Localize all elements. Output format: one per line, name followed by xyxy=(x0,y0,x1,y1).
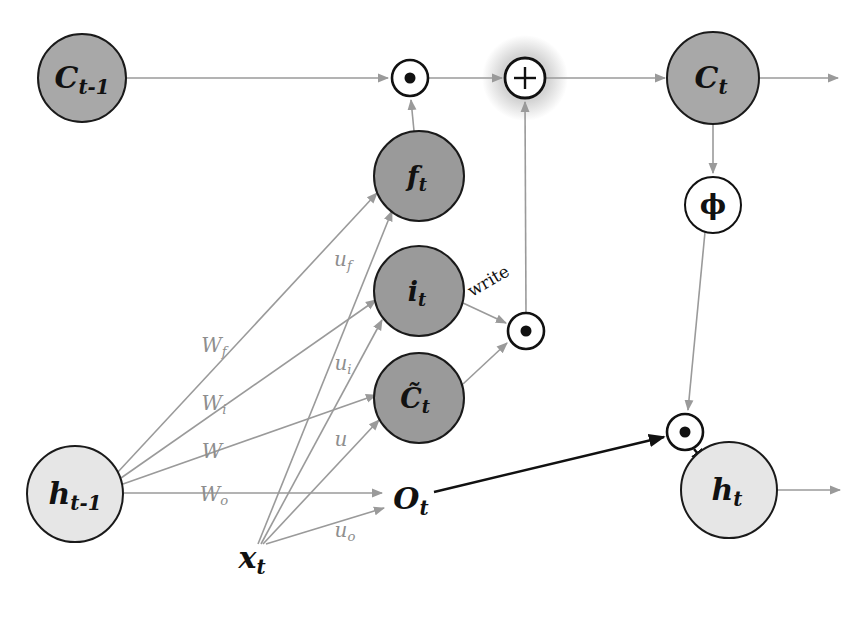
node-phi[interactable]: ϕ xyxy=(685,177,741,233)
multiply-icon-dot xyxy=(405,73,416,84)
node-o-t-label: Ot xyxy=(393,481,428,520)
node-o-t[interactable]: Ot xyxy=(393,481,428,520)
weight-label-W_o: Wo xyxy=(200,482,229,508)
weight-label-W: W xyxy=(202,439,224,463)
weight-label-W_f: Wf xyxy=(201,333,229,359)
edge-phi-to-output_mult xyxy=(688,232,705,410)
node-c-prev[interactable]: Ct-1 xyxy=(38,34,126,122)
edge-h_prev-to-i_gate xyxy=(121,300,376,478)
multiply-icon-dot xyxy=(680,427,691,438)
edge-label-layer: write xyxy=(464,261,513,301)
edge-label-write: write xyxy=(464,261,513,301)
lstm-diagram: Ct-1 ft it C̃t Ct xyxy=(0,0,866,639)
weight-label-u: u xyxy=(335,427,348,451)
node-c-tilde[interactable]: C̃t xyxy=(374,353,464,443)
edge-c_tilde-to-write_mult xyxy=(463,343,507,384)
node-layer: Ct-1 ft it C̃t Ct xyxy=(27,32,777,579)
weight-label-u_f: uf xyxy=(334,247,354,273)
weight-label-layer: Wf Wi W Wo uf ui u uo xyxy=(200,247,356,544)
edge-o_t-to-output_mult xyxy=(434,437,664,492)
weight-label-u_i: ui xyxy=(334,351,351,377)
operator-forget-multiply[interactable] xyxy=(392,60,428,96)
node-phi-label: ϕ xyxy=(700,188,726,221)
edge-write_mult-to-state_add xyxy=(525,102,526,313)
weight-label-u_o: uo xyxy=(335,518,356,544)
edge-x_t-to-f_gate xyxy=(258,211,392,544)
multiply-icon-dot xyxy=(521,326,532,337)
operator-output-multiply[interactable] xyxy=(667,414,703,450)
edge-i_gate-to-write_mult xyxy=(463,303,506,323)
node-h-prev[interactable]: ht-1 xyxy=(27,446,123,542)
node-h-next[interactable]: ht xyxy=(681,442,777,538)
operator-write-multiply[interactable] xyxy=(508,313,544,349)
node-f-gate[interactable]: ft xyxy=(374,131,464,221)
operator-state-add[interactable] xyxy=(505,58,545,98)
edge-f_gate-to-forget_mult xyxy=(411,100,414,131)
node-x-t-label: xt xyxy=(237,540,265,579)
edge-x_t-to-i_gate xyxy=(261,320,382,544)
node-c-next[interactable]: Ct xyxy=(667,32,759,124)
edge-x_t-to-c_tilde xyxy=(263,420,379,544)
weight-label-W_i: Wi xyxy=(202,391,227,417)
node-x-t[interactable]: xt xyxy=(237,540,265,579)
lstm-diagram-canvas: Ct-1 ft it C̃t Ct xyxy=(0,0,866,639)
node-i-gate[interactable]: it xyxy=(374,246,464,336)
edge-x_t-to-o_t xyxy=(266,508,384,544)
